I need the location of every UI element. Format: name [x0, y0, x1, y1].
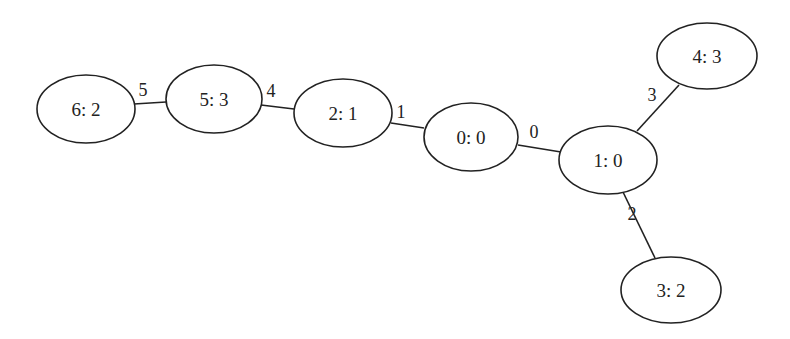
edge-label: 3	[648, 85, 657, 105]
node-1: 1: 0	[559, 126, 657, 194]
edge-0-1: 0	[518, 122, 561, 152]
edge-1-3: 2	[623, 192, 655, 258]
node-0: 0: 0	[424, 103, 518, 171]
node-label: 0: 0	[456, 127, 485, 148]
node-label: 2: 1	[328, 103, 357, 124]
edge-2-0: 1	[391, 102, 424, 128]
edge-1-4: 3	[637, 85, 679, 131]
edge-line	[261, 105, 294, 109]
nodes-layer: 0: 01: 02: 13: 24: 35: 36: 2	[37, 23, 757, 323]
edge-line	[637, 85, 679, 131]
node-5: 5: 3	[166, 65, 262, 133]
node-4: 4: 3	[657, 23, 757, 89]
edge-line	[391, 123, 424, 128]
edge-label: 4	[267, 81, 276, 101]
node-label: 6: 2	[71, 99, 100, 120]
edge-5-2: 4	[261, 81, 294, 109]
edge-line	[623, 192, 655, 258]
node-2: 2: 1	[294, 79, 392, 147]
edge-label: 0	[530, 122, 539, 142]
edge-line	[518, 145, 561, 152]
edge-label: 2	[628, 204, 637, 224]
node-label: 5: 3	[199, 89, 228, 110]
edge-label: 5	[139, 80, 148, 100]
node-label: 3: 2	[656, 280, 685, 301]
graph-canvas: 012345 0: 01: 02: 13: 24: 35: 36: 2	[0, 0, 790, 339]
edge-label: 1	[397, 102, 406, 122]
edge-line	[134, 102, 166, 104]
node-3: 3: 2	[621, 257, 721, 323]
node-6: 6: 2	[37, 75, 135, 143]
node-label: 4: 3	[692, 46, 721, 67]
edge-6-5: 5	[134, 80, 166, 104]
node-label: 1: 0	[593, 150, 622, 171]
